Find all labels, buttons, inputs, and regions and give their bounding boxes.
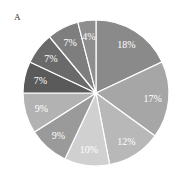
slice-label: 7% [44, 53, 57, 64]
slice-label: 7% [63, 37, 76, 48]
slice-label: 17% [144, 93, 162, 104]
slice-label: 10% [80, 144, 98, 155]
slice-label: 4% [82, 31, 95, 42]
slice-label: 12% [117, 136, 135, 147]
slice-label: 7% [34, 75, 47, 86]
slice-label: 18% [117, 39, 135, 50]
pie-chart: 18%17%12%10%9%9%7%7%7%4% [0, 0, 183, 183]
slice-label: 9% [35, 103, 48, 114]
slice-label: 9% [52, 130, 65, 141]
